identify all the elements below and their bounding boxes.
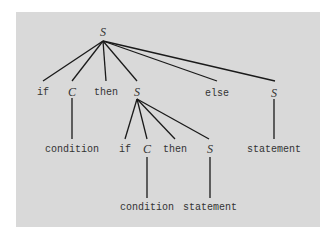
node-statement: statement <box>247 144 301 155</box>
node-if: if <box>37 87 49 98</box>
node-condition: condition <box>45 144 99 155</box>
edges <box>43 41 275 198</box>
node-c: C <box>68 85 77 99</box>
node-inner-statement: statement <box>183 202 237 213</box>
node-else: else <box>205 88 229 99</box>
parse-tree: S if C then S else S condition if C then… <box>0 0 336 239</box>
node-then: then <box>94 87 118 98</box>
node-s-inner: S <box>134 85 140 99</box>
node-inner-s: S <box>207 142 213 156</box>
node-inner-then: then <box>163 144 187 155</box>
node-s-else: S <box>271 86 277 100</box>
node-root-s: S <box>100 25 106 39</box>
node-inner-if: if <box>119 144 131 155</box>
node-inner-condition: condition <box>120 202 174 213</box>
node-inner-c: C <box>143 142 152 156</box>
